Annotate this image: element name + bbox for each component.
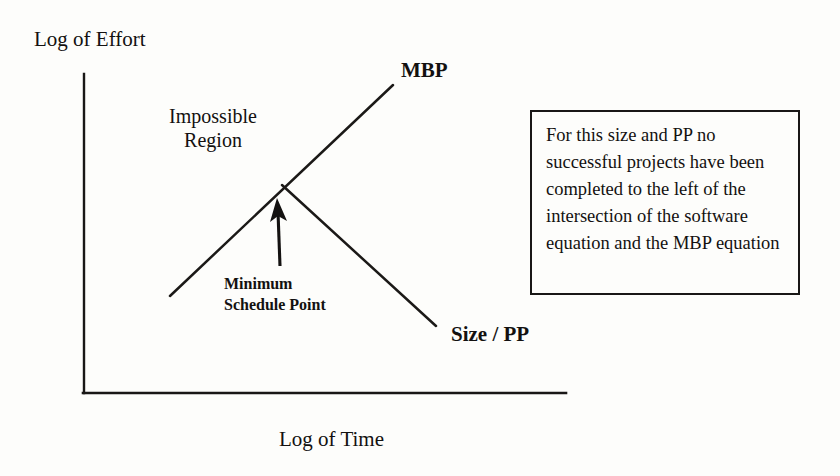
y-axis-title: Log of Effort xyxy=(34,27,146,53)
callout-text: For this size and PP no successful proje… xyxy=(546,122,790,257)
minimum-schedule-point-arrow-shaft xyxy=(278,212,280,266)
mbp-line-label: MBP xyxy=(401,58,448,84)
callout-box: For this size and PP no successful proje… xyxy=(530,110,800,295)
size-pp-line-label: Size / PP xyxy=(451,322,529,348)
impossible-region-label: Impossible Region xyxy=(157,104,269,153)
minimum-schedule-point-label: Minimum Schedule Point xyxy=(224,273,326,315)
x-axis-title: Log of Time xyxy=(279,427,384,453)
figure-canvas: Log of Effort Log of Time Impossible Reg… xyxy=(0,0,840,476)
